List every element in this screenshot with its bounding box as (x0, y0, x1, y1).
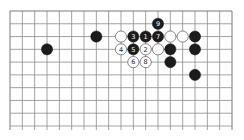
black-stone-icon (189, 31, 200, 42)
white-stone (115, 31, 126, 42)
white-stone: 2 (140, 44, 151, 55)
move-number: 8 (144, 58, 148, 66)
move-number: 9 (156, 20, 160, 28)
black-stone: 9 (152, 18, 163, 29)
black-stone-icon (165, 44, 176, 55)
black-stone (189, 44, 200, 55)
move-number: 1 (144, 33, 148, 41)
black-stone-icon (91, 31, 102, 42)
move-number: 2 (144, 46, 148, 54)
move-number: 5 (131, 46, 135, 54)
black-stone: 1 (140, 31, 151, 42)
white-stone-icon (152, 44, 163, 55)
black-stone (189, 31, 200, 42)
white-stone-icon (165, 31, 176, 42)
black-stone: 7 (152, 31, 163, 42)
black-stone-icon (41, 44, 52, 55)
white-stone (177, 31, 188, 42)
move-number: 6 (131, 58, 135, 66)
go-board: 931745268 (0, 0, 244, 140)
black-stone (91, 31, 102, 42)
black-stone-icon (189, 69, 200, 80)
white-stone (165, 31, 176, 42)
black-stone (165, 44, 176, 55)
black-stone (165, 57, 176, 68)
black-stone-icon (189, 44, 200, 55)
white-stone: 8 (140, 57, 151, 68)
black-stone (189, 69, 200, 80)
white-stone-icon (177, 31, 188, 42)
black-stone: 3 (128, 31, 139, 42)
white-stone (152, 44, 163, 55)
black-stone (41, 44, 52, 55)
move-number: 3 (131, 33, 135, 41)
white-stone: 4 (115, 44, 126, 55)
white-stone: 6 (128, 57, 139, 68)
black-stone-icon (165, 57, 176, 68)
move-number: 4 (119, 46, 123, 54)
black-stone: 5 (128, 44, 139, 55)
white-stone-icon (115, 31, 126, 42)
move-number: 7 (156, 33, 160, 41)
